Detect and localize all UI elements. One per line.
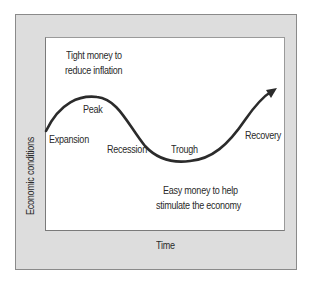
x-axis-label: Time [156,239,175,252]
phase-label-expansion: Expansion [49,133,89,146]
business-cycle-diagram [0,0,309,284]
annotation-easy-money-line2: stimulate the economy [156,199,241,212]
phase-label-recovery: Recovery [245,129,281,142]
business-cycle-curve [46,91,272,162]
y-axis-label: Economic conditions [24,137,36,215]
phase-label-trough: Trough [171,143,198,156]
annotation-easy-money-line1: Easy money to help [163,184,238,197]
annotation-tight-money-line2: reduce inflation [65,64,122,77]
phase-label-recession: Recession [107,143,147,156]
phase-label-peak: Peak [83,103,103,116]
annotation-tight-money-line1: Tight money to [66,49,122,62]
